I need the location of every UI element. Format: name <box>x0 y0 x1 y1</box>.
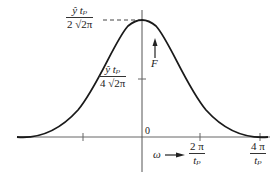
x-tick-4pi-numerator: 4 π <box>250 141 266 154</box>
omega-arrow-head <box>176 153 185 158</box>
peak-value-label: ŷ tₚ 2 √2π <box>66 5 93 30</box>
half-value-label: ŷ tₚ 4 √2π <box>99 64 126 89</box>
x-tick-4pi-denominator: tₚ <box>250 154 266 166</box>
half-label-numerator: ŷ tₚ <box>99 64 126 77</box>
plot-canvas <box>0 0 279 176</box>
f-arrow-head <box>153 38 158 46</box>
peak-label-denominator: 2 √2π <box>66 18 93 30</box>
x-tick-label-4pi: 4 π tₚ <box>250 141 266 166</box>
x-tick-2pi-denominator: tₚ <box>189 154 205 166</box>
x-tick-label-2pi: 2 π tₚ <box>189 141 205 166</box>
x-tick-2pi-numerator: 2 π <box>189 141 205 154</box>
origin-label: 0 <box>145 126 150 136</box>
x-axis-label: ω <box>153 149 161 160</box>
y-axis-label: F <box>151 58 158 69</box>
peak-label-numerator: ŷ tₚ <box>66 5 93 18</box>
half-label-denominator: 4 √2π <box>99 77 126 89</box>
